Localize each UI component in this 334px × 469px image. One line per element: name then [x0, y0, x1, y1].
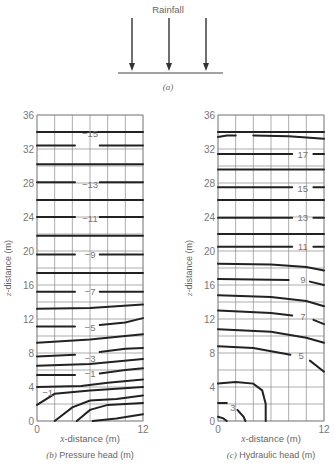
y-tick-label: 4 — [209, 382, 215, 393]
contour-line — [237, 410, 245, 421]
contour-label: 15 — [298, 183, 309, 194]
panel-a-caption: (a) — [163, 82, 174, 92]
x-tick-label: 0 — [34, 424, 40, 435]
contour-label: −7 — [85, 286, 96, 297]
y-tick-label: 12 — [204, 314, 216, 325]
y-tick-label: 4 — [28, 382, 34, 393]
rain-arrows — [129, 18, 209, 71]
contour-label: −5 — [85, 322, 96, 333]
x-tick-label: 12 — [137, 424, 149, 435]
panel-a-rainfall: Rainfall (a) — [118, 4, 223, 92]
pressure-caption: (b) Pressure head (m) — [46, 450, 134, 460]
contour-label: −9 — [85, 249, 96, 260]
contour-line — [218, 135, 236, 137]
contour-label: −1 — [85, 368, 96, 379]
x-tick-label: 0 — [215, 424, 221, 435]
contour-label: −13 — [82, 179, 98, 190]
contour-line — [313, 320, 324, 324]
y-tick-label: 24 — [23, 212, 35, 223]
hydraulic-xlabel: x-distance (m) — [240, 433, 301, 444]
y-tick-label: 36 — [204, 110, 216, 121]
y-tick-label: 16 — [204, 280, 216, 291]
pressure-head-plot: −15−13−11−9−7−5−3−1−10481216202428323601… — [23, 110, 149, 436]
figure: Rainfall (a) −15−13−11−9−7−5−3−1−1048121… — [0, 0, 334, 469]
hydraulic-ylabel: z-distance (m) — [184, 240, 194, 297]
contour-line — [100, 368, 143, 373]
contour-label: −1 — [42, 387, 53, 398]
contour-line — [37, 355, 75, 357]
contour-line — [218, 279, 289, 280]
contour-label: 9 — [300, 274, 305, 285]
contour-line — [218, 346, 290, 355]
y-tick-label: 28 — [23, 178, 35, 189]
hydraulic-head-plot: 17151311975304812162024283236012 — [204, 110, 330, 436]
contour-label: −11 — [82, 213, 97, 224]
contour-line — [93, 414, 143, 421]
contour-label: 11 — [298, 241, 308, 252]
y-tick-label: 36 — [23, 110, 35, 121]
contour-label: −15 — [82, 128, 98, 139]
y-tick-label: 12 — [23, 314, 35, 325]
y-tick-label: 8 — [28, 348, 34, 359]
y-tick-label: 28 — [204, 178, 216, 189]
contour-line — [218, 311, 292, 316]
y-tick-label: 8 — [209, 348, 215, 359]
rainfall-title: Rainfall — [152, 4, 184, 15]
pressure-ylabel: z-distance (m) — [3, 240, 13, 297]
y-tick-label: 32 — [23, 144, 35, 155]
x-tick-label: 12 — [318, 424, 330, 435]
y-tick-label: 20 — [204, 246, 216, 257]
hydraulic-caption: (c) Hydraulic head (m) — [227, 450, 316, 460]
contour-label: 5 — [298, 350, 303, 361]
contour-line — [310, 282, 324, 285]
contour-label: 7 — [300, 311, 305, 322]
contour-line — [100, 348, 143, 352]
contour-label: 17 — [298, 149, 309, 160]
y-tick-label: 20 — [23, 246, 35, 257]
contour-label: −3 — [85, 353, 96, 364]
y-tick-label: 24 — [204, 212, 216, 223]
contour-label: 3 — [230, 402, 235, 413]
pressure-xlabel: x-distance (m) — [59, 433, 120, 444]
contour-line — [218, 417, 227, 421]
contour-label: 13 — [298, 212, 309, 223]
y-tick-label: 32 — [204, 144, 216, 155]
y-tick-label: 16 — [23, 280, 35, 291]
